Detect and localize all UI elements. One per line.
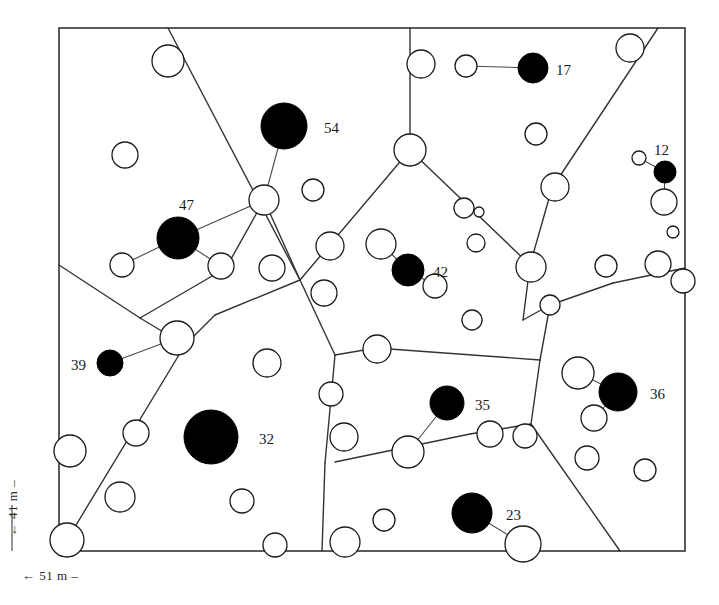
point-label-17: 17 <box>556 63 571 78</box>
open-point <box>123 420 149 446</box>
open-point <box>330 423 358 451</box>
open-point <box>230 489 254 513</box>
voronoi-edge-8 <box>215 280 300 315</box>
labelled-point-17 <box>518 53 548 83</box>
open-point <box>474 207 484 217</box>
open-point <box>516 252 546 282</box>
scale-label-horizontal: ← 51 m – <box>22 568 78 584</box>
open-point <box>671 269 695 293</box>
point-label-23: 23 <box>506 508 521 523</box>
voronoi-edge-27 <box>376 348 540 360</box>
open-point <box>263 533 287 557</box>
open-point <box>540 295 560 315</box>
open-point <box>575 446 599 470</box>
open-point <box>253 349 281 377</box>
open-point <box>651 189 677 215</box>
open-point <box>330 527 360 557</box>
labelled-point-35 <box>430 386 464 420</box>
open-point <box>525 123 547 145</box>
open-point <box>455 55 477 77</box>
voronoi-cell-edges <box>59 28 685 551</box>
open-point <box>105 482 135 512</box>
open-point <box>316 232 344 260</box>
voronoi-edge-22 <box>531 360 540 424</box>
open-point <box>616 34 644 62</box>
labelled-point-54 <box>261 103 307 149</box>
open-point <box>634 459 656 481</box>
open-point <box>513 424 537 448</box>
open-point <box>632 151 646 165</box>
open-point <box>110 253 134 277</box>
labelled-point-47 <box>157 217 199 259</box>
open-point <box>541 173 569 201</box>
open-point <box>302 179 324 201</box>
open-point <box>454 198 474 218</box>
open-point <box>363 335 391 363</box>
open-point <box>581 405 607 431</box>
plot-frame <box>59 28 685 551</box>
open-point <box>249 185 279 215</box>
labelled-point-12 <box>654 161 676 183</box>
neighbour-links <box>110 66 665 544</box>
open-point <box>462 310 482 330</box>
labelled-point-23 <box>452 493 492 533</box>
open-point <box>366 229 396 259</box>
voronoi-edge-23 <box>531 424 620 551</box>
open-point <box>562 357 594 389</box>
point-label-39: 39 <box>71 358 86 373</box>
open-point <box>407 50 435 78</box>
voronoi-edge-13 <box>300 150 410 280</box>
point-label-12: 12 <box>654 143 669 158</box>
open-point <box>50 523 84 557</box>
open-point <box>467 234 485 252</box>
open-point <box>54 435 86 467</box>
open-point <box>311 280 337 306</box>
open-point <box>319 382 343 406</box>
open-point <box>208 253 234 279</box>
voronoi-figure <box>0 0 719 605</box>
open-point <box>477 421 503 447</box>
plot-border <box>59 28 685 551</box>
point-label-32: 32 <box>259 432 274 447</box>
open-point <box>259 255 285 281</box>
open-point <box>645 251 671 277</box>
point-label-36: 36 <box>650 387 665 402</box>
open-point <box>373 509 395 531</box>
point-label-35: 35 <box>475 398 490 413</box>
open-points-layer <box>50 34 695 562</box>
voronoi-edge-11 <box>322 463 325 551</box>
point-label-47: 47 <box>179 198 194 213</box>
labelled-point-39 <box>97 350 123 376</box>
point-label-42: 42 <box>433 265 448 280</box>
open-point <box>392 436 424 468</box>
open-point <box>505 526 541 562</box>
open-point <box>667 226 679 238</box>
open-point <box>112 142 138 168</box>
labelled-point-32 <box>184 410 238 464</box>
labelled-point-36 <box>599 373 637 411</box>
open-point <box>160 321 194 355</box>
scale-label-vertical: ← 41 m – <box>5 478 21 538</box>
open-point <box>595 255 617 277</box>
open-point <box>394 134 426 166</box>
open-point <box>152 45 184 77</box>
labelled-point-42 <box>392 254 424 286</box>
point-label-54: 54 <box>324 121 339 136</box>
